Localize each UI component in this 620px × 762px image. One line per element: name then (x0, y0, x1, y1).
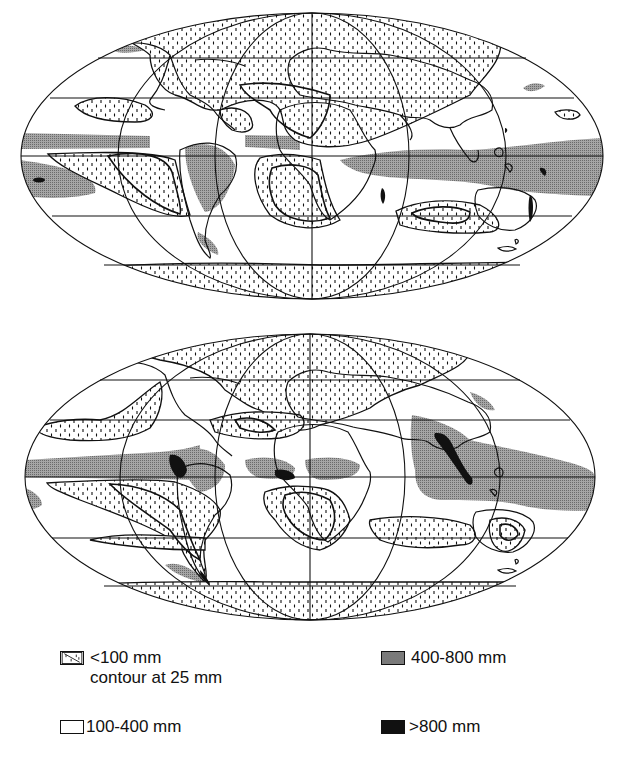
legend-sublabel-contour: contour at 25 mm (90, 668, 222, 688)
legend-swatch-blank (60, 720, 84, 734)
legend-swatch-dotted (60, 651, 84, 665)
precipitation-map-top (0, 0, 620, 310)
legend-label-over-800mm: >800 mm (409, 717, 480, 736)
legend-item-under-100mm: <100 mm contour at 25 mm (60, 651, 222, 688)
legend-swatch-stipple (381, 651, 405, 665)
legend-label-400-800mm: 400-800 mm (411, 648, 506, 667)
graticule (21, 13, 603, 299)
legend-label-under-100mm: <100 mm (90, 648, 161, 667)
legend-label-100-400mm: 100-400 mm (86, 717, 181, 736)
legend-item-400-800mm: 400-800 mm (381, 651, 506, 668)
legend-item-100-400mm: 100-400 mm (60, 720, 181, 737)
precipitation-map-bottom (0, 320, 620, 630)
legend-swatch-solid (381, 720, 405, 734)
graticule (25, 334, 595, 620)
legend-item-over-800mm: >800 mm (381, 720, 480, 737)
